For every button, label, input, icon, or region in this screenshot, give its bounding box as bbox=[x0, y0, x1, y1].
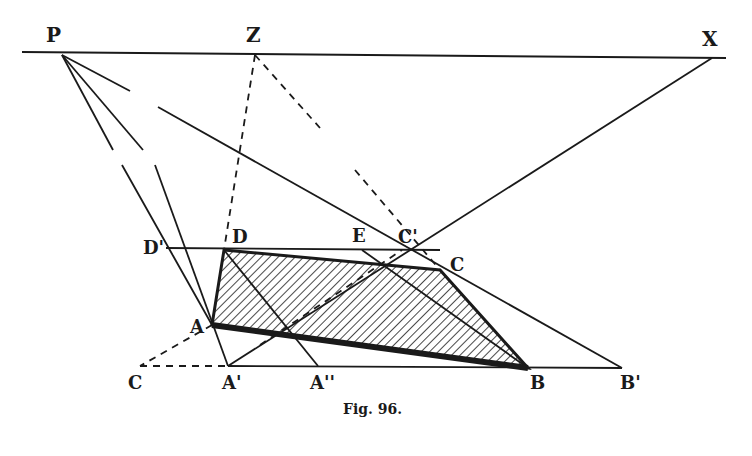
label-b-prime: B' bbox=[620, 372, 641, 393]
perspective-diagram: P Z X D' D E C' C A C A' A'' B B' Fig. 9… bbox=[0, 0, 752, 456]
line-dprime-cprime bbox=[166, 248, 440, 250]
baseline bbox=[228, 366, 622, 368]
label-a-prime: A' bbox=[221, 372, 241, 393]
label-b: B bbox=[530, 372, 545, 393]
horizon-line bbox=[22, 52, 726, 58]
label-c-low: C bbox=[128, 372, 142, 393]
label-x: X bbox=[702, 27, 718, 51]
label-z: Z bbox=[246, 23, 261, 47]
label-a: A bbox=[189, 316, 205, 337]
label-d: D bbox=[232, 226, 248, 247]
label-c: C bbox=[450, 254, 464, 275]
label-a-double-prime: A'' bbox=[309, 372, 335, 393]
label-d-prime: D' bbox=[143, 237, 164, 258]
label-p: P bbox=[46, 23, 61, 47]
hatched-quadrilateral bbox=[212, 250, 528, 368]
figure-caption: Fig. 96. bbox=[343, 401, 402, 417]
label-c-prime: C' bbox=[398, 226, 418, 247]
label-e: E bbox=[352, 225, 366, 246]
